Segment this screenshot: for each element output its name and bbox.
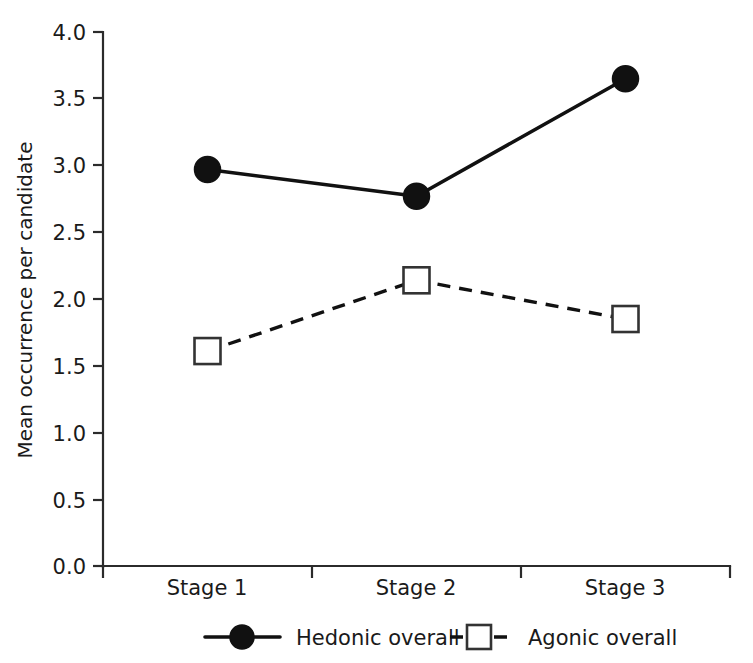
data-point-hedonic-stage-2 xyxy=(404,183,430,209)
series-hedonic-overall xyxy=(195,66,639,209)
line-chart-canvas: 4.0 3.5 3.0 2.5 2.0 1.5 1.0 0.5 0.0 Mean… xyxy=(0,0,753,663)
y-tick-label-4.0: 4.0 xyxy=(53,21,86,45)
data-point-agonic-stage-2 xyxy=(404,267,430,293)
data-point-hedonic-stage-3 xyxy=(613,66,639,92)
legend-entry-agonic: Agonic overall xyxy=(450,625,677,650)
x-tick-label-stage-3: Stage 3 xyxy=(585,576,666,600)
data-point-agonic-stage-1 xyxy=(195,338,221,364)
data-point-agonic-stage-3 xyxy=(613,306,639,332)
y-tick-label-1.0: 1.0 xyxy=(53,422,86,446)
legend-label-hedonic: Hedonic overall xyxy=(296,626,460,650)
y-tick-label-3.0: 3.0 xyxy=(53,154,86,178)
y-tick-label-2.0: 2.0 xyxy=(53,288,86,312)
data-point-hedonic-stage-1 xyxy=(195,157,221,183)
legend-label-agonic: Agonic overall xyxy=(528,626,677,650)
legend-open-square-icon xyxy=(467,625,491,649)
y-tick-label-0.5: 0.5 xyxy=(53,489,86,513)
x-axis: Stage 1 Stage 2 Stage 3 xyxy=(103,566,730,600)
y-tick-label-1.5: 1.5 xyxy=(53,355,86,379)
x-tick-label-stage-2: Stage 2 xyxy=(376,576,457,600)
x-tick-label-stage-1: Stage 1 xyxy=(167,576,248,600)
y-tick-label-3.5: 3.5 xyxy=(53,87,86,111)
legend-filled-circle-icon xyxy=(230,625,254,649)
series-line-hedonic xyxy=(208,79,626,196)
y-axis-title: Mean occurrence per candidate xyxy=(13,142,37,459)
y-axis: 4.0 3.5 3.0 2.5 2.0 1.5 1.0 0.5 0.0 Mean… xyxy=(13,21,103,579)
chart-figure: 4.0 3.5 3.0 2.5 2.0 1.5 1.0 0.5 0.0 Mean… xyxy=(0,0,753,663)
y-tick-label-0.0: 0.0 xyxy=(53,555,86,579)
chart-legend: Hedonic overall Agonic overall xyxy=(205,625,677,650)
series-agonic-overall xyxy=(195,267,639,364)
legend-entry-hedonic: Hedonic overall xyxy=(205,625,460,650)
y-tick-label-2.5: 2.5 xyxy=(53,221,86,245)
